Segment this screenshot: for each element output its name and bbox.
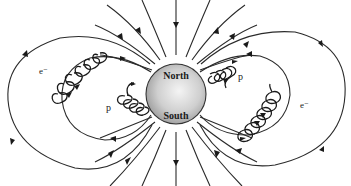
electron-label-left: e⁻: [39, 66, 48, 76]
open-field-lines-bottom: [95, 117, 257, 186]
closed-field-loops-right: [200, 32, 345, 166]
electron-spiral-left: [52, 53, 107, 104]
closed-field-loops-left: [8, 36, 152, 169]
proton-label-left: p: [106, 102, 111, 113]
planet: North South: [146, 64, 206, 124]
proton-spiral-left: [118, 82, 149, 115]
electron-label-right: e⁻: [300, 100, 309, 110]
proton-spiral-right: [208, 67, 235, 88]
north-pole-label: North: [163, 70, 189, 81]
magnetic-dipole-diagram: North South e⁻ p p e⁻: [0, 0, 351, 186]
proton-label-right: p: [238, 71, 243, 82]
south-pole-label: South: [163, 110, 188, 121]
